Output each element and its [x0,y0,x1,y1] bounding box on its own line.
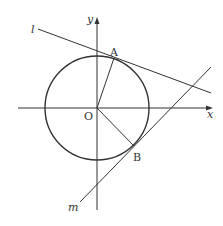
y-axis [95,17,100,210]
segment-OB [97,108,134,146]
point-B-label: B [133,151,141,164]
x-axis [18,106,213,111]
origin-label: O [84,110,93,123]
tangent-line-m [80,67,211,202]
x-axis-label: x [207,108,214,121]
segment-OA [97,58,114,108]
tangent-line-l [38,29,211,93]
diagram-canvas: y x O A B l m [0,0,223,226]
line-l-label: l [31,23,35,36]
y-axis-arrow-icon [95,17,100,24]
point-A-label: A [109,46,119,59]
y-axis-label: y [86,13,94,26]
line-m-label: m [68,201,78,214]
